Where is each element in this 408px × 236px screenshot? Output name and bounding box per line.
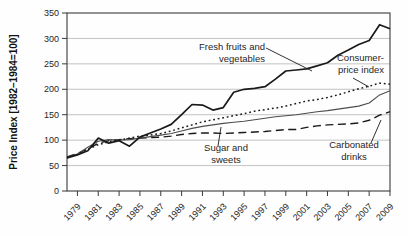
x-tick-label-1987: 1987 (145, 201, 166, 222)
x-tick-label-1991: 1991 (187, 201, 208, 222)
y-tick-label-250: 250 (44, 59, 59, 69)
series-label-carbonated-drinks: Carbonated drinks (320, 139, 388, 162)
x-tick-label-2001: 2001 (291, 201, 312, 222)
plot-canvas: 0501001502002503003501979198119831985198… (0, 0, 408, 236)
x-tick-label-1981: 1981 (82, 201, 103, 222)
x-tick-label-2009: 2009 (374, 201, 395, 222)
y-tick-label-200: 200 (44, 84, 59, 94)
y-tick-label-0: 0 (54, 186, 59, 196)
x-tick-label-2007: 2007 (353, 201, 374, 222)
series-label-consumer-price-index: Consumer- price index (314, 52, 384, 75)
x-tick-label-1983: 1983 (103, 201, 124, 222)
x-tick-label-2005: 2005 (333, 201, 354, 222)
y-axis-title: Price Index [1982–1984=100] (8, 34, 19, 169)
annotation-pointer-consumer-price-index (353, 78, 369, 87)
x-tick-label-1985: 1985 (124, 201, 145, 222)
y-tick-label-300: 300 (44, 34, 59, 44)
series-label-fresh-fruits-and-vegetables: Fresh fruits and vegetables (183, 41, 265, 64)
y-tick-label-100: 100 (44, 135, 59, 145)
x-tick-label-1979: 1979 (62, 201, 83, 222)
x-tick-label-1993: 1993 (207, 201, 228, 222)
x-tick-label-2003: 2003 (312, 201, 333, 222)
y-tick-label-350: 350 (44, 8, 59, 18)
y-tick-label-150: 150 (44, 110, 59, 120)
y-tick-label-50: 50 (49, 161, 59, 171)
x-tick-label-1997: 1997 (249, 201, 270, 222)
x-tick-label-1999: 1999 (270, 201, 291, 222)
series-label-sugar-and-sweets: Sugar and sweets (196, 142, 256, 165)
annotation-pointer-fresh-fruits-and-vegetables (266, 48, 312, 71)
x-tick-label-1989: 1989 (166, 201, 187, 222)
x-tick-label-1995: 1995 (228, 201, 249, 222)
price-index-chart: 0501001502002503003501979198119831985198… (0, 0, 408, 236)
